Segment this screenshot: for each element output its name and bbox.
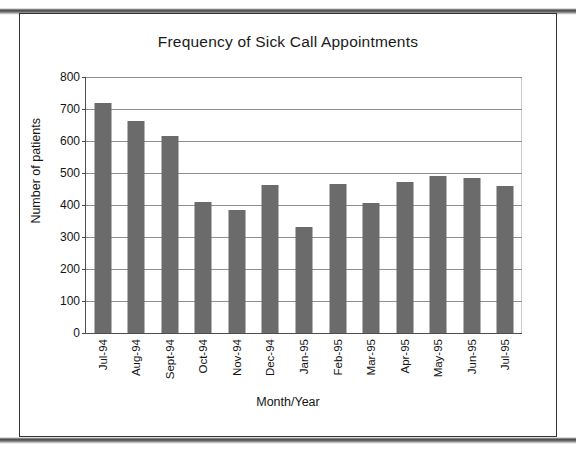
bar	[463, 178, 480, 333]
bar	[262, 185, 279, 333]
bar	[94, 103, 111, 333]
bar	[228, 210, 245, 333]
x-tick-label: Aug-94	[130, 339, 142, 376]
bar-slot	[354, 77, 388, 333]
bar-slot	[220, 77, 254, 333]
bar	[295, 227, 312, 333]
bar-slot	[488, 77, 522, 333]
x-tick-label: Apr-95	[399, 339, 411, 374]
bar-slot	[388, 77, 422, 333]
x-tick-label: Dec-94	[264, 339, 276, 376]
x-tick-label: May-95	[432, 339, 444, 377]
bar	[430, 176, 447, 333]
y-axis-title: Number of patients	[29, 118, 43, 224]
bar-series	[86, 77, 522, 333]
bar-slot	[153, 77, 187, 333]
bar-slot	[287, 77, 321, 333]
y-tick-label: 700	[60, 102, 80, 116]
bar-slot	[421, 77, 455, 333]
x-tick-label: Mar-95	[365, 339, 377, 375]
x-axis-title: Month/Year	[19, 395, 557, 409]
y-tick-label: 200	[60, 262, 80, 276]
bar	[195, 202, 212, 333]
bar-chart: Frequency of Sick Call Appointments Numb…	[19, 13, 557, 437]
scan-edge-band-bottom	[0, 437, 576, 444]
x-tick-label: Jan-95	[298, 339, 310, 374]
x-tick-label: Feb-95	[332, 339, 344, 375]
bar	[128, 121, 145, 333]
bar-slot	[120, 77, 154, 333]
scanned-page: Frequency of Sick Call Appointments Numb…	[0, 0, 576, 454]
plot-area: 0100200300400500600700800 Jul-94Aug-94Se…	[85, 77, 522, 334]
chart-title: Frequency of Sick Call Appointments	[19, 33, 557, 51]
y-tick-mark	[82, 333, 86, 334]
y-tick-label: 500	[60, 166, 80, 180]
y-tick-label: 0	[73, 326, 80, 340]
y-tick-label: 100	[60, 294, 80, 308]
x-tick-label: Oct-94	[197, 339, 209, 374]
bar-slot	[455, 77, 489, 333]
y-tick-label: 800	[60, 70, 80, 84]
bar	[363, 203, 380, 333]
bar-slot	[321, 77, 355, 333]
x-tick-label: Jul-95	[499, 339, 511, 370]
x-tick-label: Jul-94	[97, 339, 109, 370]
x-tick-label: Sept-94	[164, 339, 176, 379]
bar-slot	[254, 77, 288, 333]
x-tick-label: Nov-94	[231, 339, 243, 376]
bar	[161, 136, 178, 333]
y-tick-label: 600	[60, 134, 80, 148]
bar	[396, 182, 413, 333]
y-tick-label: 300	[60, 230, 80, 244]
bar-slot	[86, 77, 120, 333]
bar	[329, 184, 346, 333]
x-tick-label: Jun-95	[466, 339, 478, 374]
y-tick-label: 400	[60, 198, 80, 212]
bar-slot	[187, 77, 221, 333]
bar	[497, 186, 514, 333]
